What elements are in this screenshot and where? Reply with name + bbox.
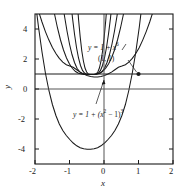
annotation-bottom-part1: y = 1 + (x: [73, 110, 104, 119]
annotation-top-curve-text: y = 1 + x: [88, 43, 116, 52]
y-tick-label-2: 2: [23, 54, 27, 64]
x-tick-label-0: 0: [101, 166, 105, 176]
x-tick-label-2: 2: [169, 166, 173, 176]
plot-area: [0, 0, 185, 192]
y-axis-label: y: [2, 85, 12, 89]
x-tick-label-minus-2: -2: [29, 166, 36, 176]
y-tick-label-0: 0: [23, 84, 27, 94]
x-tick-label-minus-1: -1: [64, 166, 71, 176]
marked-point-1-1: [136, 72, 140, 76]
annotation-bottom-curve-equation: y = 1 + (x2 − 1)3: [73, 108, 123, 119]
x-axis-label: x: [101, 178, 105, 188]
x-tick-label-1: 1: [136, 166, 140, 176]
y-tick-label-minus-4: -4: [18, 144, 25, 154]
y-tick-label-minus-2: -2: [18, 114, 25, 124]
annotation-top-curve-exponent: 6: [116, 41, 119, 47]
annotation-point-label: (1, 1): [98, 54, 114, 63]
figure-container: 4 2 0 -2 -4 -2 -1 0 1 2 y x y = 1 + x6 (…: [0, 0, 185, 192]
annotation-bottom-part2: − 1): [106, 110, 120, 119]
y-tick-label-4: 4: [23, 24, 27, 34]
annotation-top-curve-equation: y = 1 + x6: [88, 41, 119, 52]
annotation-bottom-sup2: 3: [121, 108, 124, 114]
